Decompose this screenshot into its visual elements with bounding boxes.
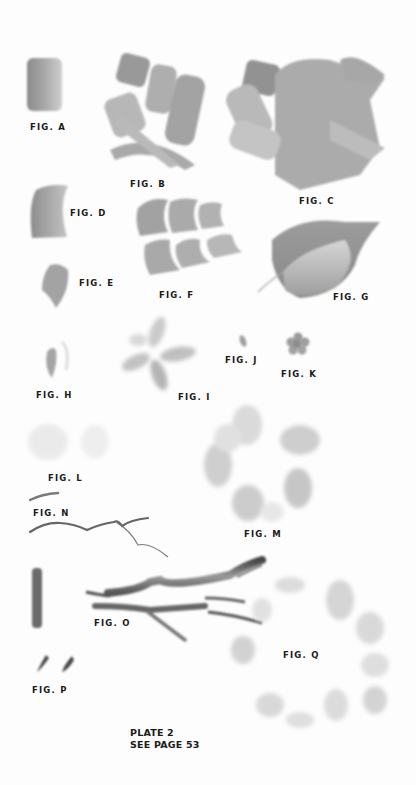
figure-m-flower bbox=[204, 405, 320, 522]
figure-a-stroke bbox=[27, 58, 62, 111]
figure-label-a: FIG. A bbox=[30, 122, 66, 132]
figure-c-strokes bbox=[222, 57, 385, 190]
plate-caption: PLATE 2 SEE PAGE 53 bbox=[130, 727, 200, 751]
figure-j-stroke bbox=[238, 334, 248, 347]
figure-label-i: FIG. I bbox=[178, 392, 211, 402]
figure-label-p: FIG. P bbox=[32, 685, 68, 695]
figure-h-stroke bbox=[46, 342, 67, 378]
plate-page: FIG. A FIG. B FIG. C FIG. D FIG. E FIG. … bbox=[0, 0, 416, 785]
figure-label-e: FIG. E bbox=[79, 278, 114, 288]
figure-d-stroke bbox=[31, 185, 68, 238]
figure-b-strokes bbox=[102, 52, 207, 170]
figure-label-l: FIG. L bbox=[48, 473, 83, 483]
figure-g-leaf bbox=[258, 220, 380, 298]
figure-o-branch bbox=[32, 560, 262, 640]
figure-label-g: FIG. G bbox=[333, 292, 369, 302]
figure-i-flower bbox=[119, 315, 196, 393]
figure-label-m: FIG. M bbox=[244, 529, 282, 539]
figure-label-n: FIG. N bbox=[33, 508, 69, 518]
figure-l-strokes bbox=[28, 424, 109, 460]
figure-e-stroke bbox=[42, 264, 68, 308]
figure-n-strokes bbox=[30, 493, 168, 557]
plate-reference: SEE PAGE 53 bbox=[130, 739, 200, 751]
figure-f-strokes bbox=[136, 198, 242, 275]
figure-label-o: FIG. O bbox=[94, 618, 131, 628]
figure-label-k: FIG. K bbox=[281, 369, 317, 379]
figure-p-strokes bbox=[37, 655, 74, 672]
figure-label-h: FIG. H bbox=[36, 390, 72, 400]
figure-label-q: FIG. Q bbox=[283, 650, 320, 660]
figure-label-j: FIG. J bbox=[225, 355, 258, 365]
figure-label-d: FIG. D bbox=[70, 208, 106, 218]
plate-title: PLATE 2 bbox=[130, 727, 200, 739]
figure-label-f: FIG. F bbox=[159, 290, 194, 300]
figure-k-flower bbox=[287, 333, 310, 355]
figure-label-b: FIG. B bbox=[130, 179, 166, 189]
figure-label-c: FIG. C bbox=[299, 196, 335, 206]
